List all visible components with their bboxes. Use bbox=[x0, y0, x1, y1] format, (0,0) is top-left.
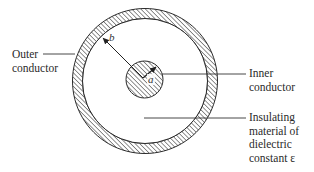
inner-conductor-label-line1: Inner bbox=[249, 67, 295, 81]
insulating-label-line3: dielectric bbox=[249, 138, 299, 152]
insulating-label-line2: material of bbox=[249, 125, 299, 139]
outer-conductor-label-line2: conductor bbox=[12, 62, 58, 76]
insulating-label-line1: Insulating bbox=[249, 111, 299, 125]
outer-conductor-label-line1: Outer bbox=[12, 48, 58, 62]
radius-a-label: a bbox=[147, 74, 155, 85]
radius-b-label: b bbox=[109, 31, 115, 43]
inner-conductor-label-line2: conductor bbox=[249, 81, 295, 95]
insulating-label-line4: constant ε bbox=[249, 152, 299, 166]
inner-conductor-label: Inner conductor bbox=[249, 67, 295, 94]
insulating-material-label: Insulating material of dielectric consta… bbox=[249, 111, 299, 165]
outer-conductor-label: Outer conductor bbox=[12, 48, 58, 75]
